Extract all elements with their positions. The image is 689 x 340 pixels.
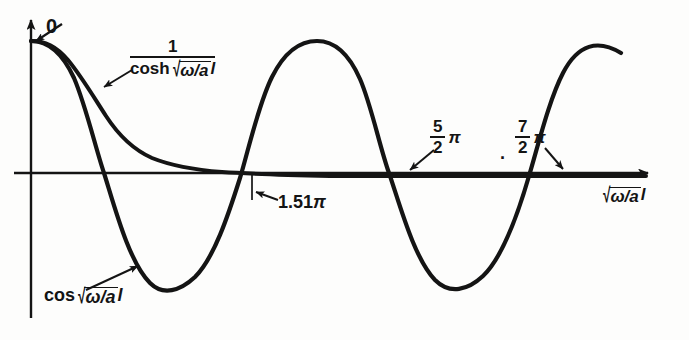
- radical-icon: √: [78, 284, 86, 305]
- tick-label-5-over-2-pi: 5 2 π: [430, 118, 461, 156]
- sqrt-group: √ω/a: [170, 60, 211, 79]
- pi-symbol: π: [313, 192, 326, 212]
- tick-label-1-51-pi: 1.51π: [278, 193, 326, 211]
- seven-halves-fraction: 7 2: [515, 118, 530, 156]
- radical-icon: √: [173, 58, 181, 79]
- x-axis-label: √ω/al: [600, 186, 646, 205]
- pi-symbol: π: [445, 129, 460, 146]
- cosh-text: cosh: [130, 59, 170, 78]
- tick-151-arrow: [256, 192, 278, 200]
- sech-fraction: 1 cosh√ω/al: [130, 38, 215, 79]
- sqrt-tail: l: [211, 59, 216, 78]
- fraction-denominator: 2: [430, 138, 445, 156]
- fraction-numerator: 7: [515, 118, 530, 138]
- tick-72-arrow: [545, 148, 563, 169]
- sqrt-group-axis: √ω/a: [600, 186, 641, 205]
- sqrt-tail: l: [641, 185, 646, 204]
- cosine-curve-label: cos√ω/al: [44, 286, 123, 306]
- radical-icon: √: [603, 184, 611, 205]
- pi-symbol: π: [530, 129, 545, 146]
- sech-curve: [31, 41, 646, 176]
- sech-denominator: cosh√ω/al: [130, 58, 215, 79]
- sech-curve-label: 1 cosh√ω/al: [130, 38, 215, 79]
- sqrt-tail: l: [118, 285, 123, 305]
- figure-canvas: 0 1 cosh√ω/al cos√ω/al √ω/al 1.51π 5 2 π…: [0, 0, 689, 340]
- sech-numerator: 1: [130, 38, 215, 58]
- cosh-label-arrow: [104, 70, 132, 87]
- five-halves-fraction: 5 2: [430, 118, 445, 156]
- tick-value: 1.51: [278, 192, 313, 212]
- tick-label-7-over-2-pi: 7 2 π: [515, 118, 546, 156]
- sqrt-group-cos: √ω/a: [75, 287, 117, 306]
- sqrt-body: ω/a: [179, 61, 210, 79]
- origin-label: 0: [46, 16, 57, 36]
- sqrt-body: ω/a: [84, 287, 117, 306]
- sqrt-body: ω/a: [609, 187, 640, 205]
- cos-text: cos: [44, 285, 75, 305]
- fraction-denominator: 2: [515, 138, 530, 156]
- fraction-numerator: 5: [430, 118, 445, 138]
- mid-dot-mark: ·: [500, 148, 506, 169]
